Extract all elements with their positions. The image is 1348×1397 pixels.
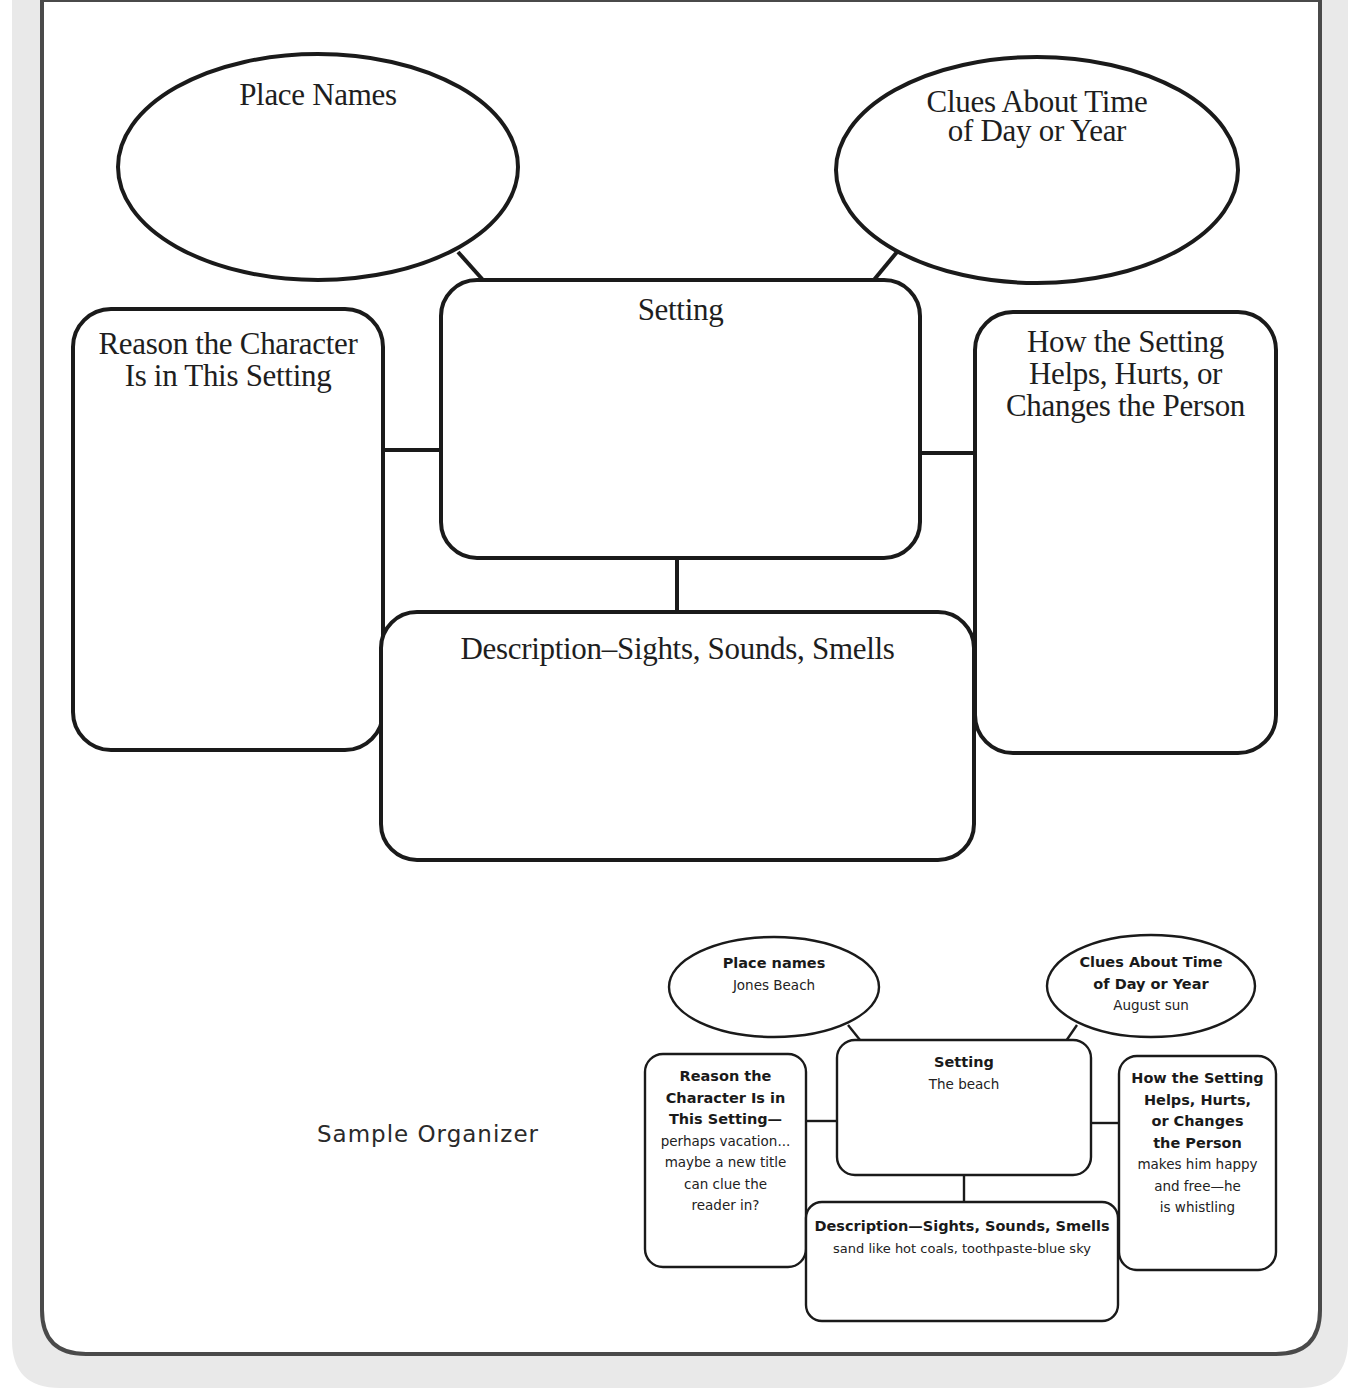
sample-how-heading: or Changes <box>1119 1111 1276 1133</box>
sample-reason-value: maybe a new title <box>645 1152 806 1174</box>
sample-place-text: Place names Jones Beach <box>669 953 879 996</box>
time-clues-label: Clues About Time of Day or Year <box>837 87 1237 145</box>
sample-how-heading: the Person <box>1119 1133 1276 1155</box>
sample-setting-text: Setting The beach <box>837 1052 1091 1095</box>
sample-how-value: and free—he <box>1119 1176 1276 1198</box>
sample-how-text: How the Setting Helps, Hurts, or Changes… <box>1119 1068 1276 1219</box>
sample-time-value: August sun <box>1047 995 1255 1017</box>
sample-place-heading: Place names <box>669 953 879 975</box>
sample-how-value: makes him happy <box>1119 1154 1276 1176</box>
sample-time-heading: Clues About Time <box>1047 952 1255 974</box>
sample-organizer-title: Sample Organizer <box>300 1121 556 1147</box>
sample-reason-value: can clue the <box>645 1174 806 1196</box>
description-label: Description–Sights, Sounds, Smells <box>381 633 974 665</box>
sample-time-text: Clues About Time of Day or Year August s… <box>1047 952 1255 1017</box>
time-clues-line: Clues About Time <box>837 87 1237 116</box>
graphic-organizer-page: Place Names Clues About Time of Day or Y… <box>0 0 1348 1397</box>
sample-how-value: is whistling <box>1119 1197 1276 1219</box>
sample-reason-value: reader in? <box>645 1195 806 1217</box>
place-names-label: Place Names <box>118 79 518 111</box>
sample-time-heading: of Day or Year <box>1047 974 1255 996</box>
reason-line: Is in This Setting <box>73 360 383 392</box>
sample-description-text: Description—Sights, Sounds, Smells sand … <box>806 1216 1118 1259</box>
sample-setting-heading: Setting <box>837 1052 1091 1074</box>
sample-how-heading: How the Setting <box>1119 1068 1276 1090</box>
sample-place-value: Jones Beach <box>669 975 879 997</box>
setting-label: Setting <box>441 294 920 326</box>
how-line: How the Setting <box>975 326 1276 358</box>
sample-setting-value: The beach <box>837 1074 1091 1096</box>
sample-reason-heading: Reason the <box>645 1066 806 1088</box>
sample-description-heading: Description—Sights, Sounds, Smells <box>806 1216 1118 1238</box>
sample-reason-heading: Character Is in <box>645 1088 806 1110</box>
how-line: Changes the Person <box>975 390 1276 422</box>
sample-description-value: sand like hot coals, toothpaste-blue sky <box>806 1238 1118 1260</box>
sample-reason-value: perhaps vacation... <box>645 1131 806 1153</box>
sample-reason-heading: This Setting— <box>645 1109 806 1131</box>
how-label: How the Setting Helps, Hurts, or Changes… <box>975 326 1276 422</box>
sample-how-heading: Helps, Hurts, <box>1119 1090 1276 1112</box>
time-clues-line: of Day or Year <box>837 116 1237 145</box>
reason-line: Reason the Character <box>73 328 383 360</box>
reason-label: Reason the Character Is in This Setting <box>73 328 383 392</box>
sample-reason-text: Reason the Character Is in This Setting—… <box>645 1066 806 1217</box>
how-line: Helps, Hurts, or <box>975 358 1276 390</box>
